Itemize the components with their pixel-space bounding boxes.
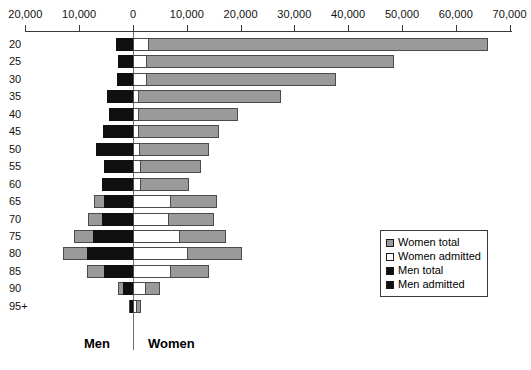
x-axis-tick <box>294 25 295 31</box>
age-group-label: 55 <box>9 161 21 172</box>
bar-men-admitted <box>118 55 133 68</box>
x-axis-tick <box>456 25 457 31</box>
bar-men-admitted <box>109 108 133 121</box>
x-axis-tick-label: 60,000 <box>439 9 473 20</box>
bar-women-admitted <box>133 73 147 86</box>
bar-women-total <box>133 73 336 86</box>
age-group-label: 60 <box>9 179 21 190</box>
legend-item: Women total <box>386 236 481 249</box>
bar-row: 65 <box>0 195 531 208</box>
bar-men-admitted <box>102 213 133 226</box>
x-axis-tick-label: 10,000 <box>62 9 96 20</box>
bar-men-admitted <box>116 38 133 51</box>
age-group-label: 25 <box>9 56 21 67</box>
x-axis-tick <box>187 25 188 31</box>
bar-row: 50 <box>0 143 531 156</box>
x-axis-tick <box>79 25 80 31</box>
x-axis-tick-label: 40,000 <box>331 9 365 20</box>
bar-women-admitted <box>133 108 139 121</box>
age-group-label: 95+ <box>9 301 28 312</box>
age-group-label: 65 <box>9 196 21 207</box>
x-axis-tick <box>348 25 349 31</box>
bar-women-admitted <box>133 178 141 191</box>
x-axis-tick <box>402 25 403 31</box>
bar-row: 20 <box>0 38 531 51</box>
bar-women-admitted <box>133 160 141 173</box>
bar-men-admitted <box>107 90 133 103</box>
bar-row: 55 <box>0 160 531 173</box>
x-axis-tick-label: 50,000 <box>385 9 419 20</box>
x-axis-tick-label: 0 <box>130 9 136 20</box>
age-group-label: 90 <box>9 283 21 294</box>
x-axis: 20,00010,000010,00020,00030,00040,00050,… <box>0 0 531 34</box>
legend-item: Men total <box>386 264 481 277</box>
age-group-label: 80 <box>9 248 21 259</box>
legend-swatch-women-admitted-icon <box>386 253 394 261</box>
bar-men-admitted <box>117 73 133 86</box>
legend-item: Men admitted <box>386 278 481 291</box>
age-group-label: 35 <box>9 91 21 102</box>
legend-swatch-men-total-icon <box>386 267 394 275</box>
age-group-label: 45 <box>9 126 21 137</box>
age-group-label: 85 <box>9 266 21 277</box>
bar-women-admitted <box>133 300 137 313</box>
legend-item: Women admitted <box>386 250 481 263</box>
bar-men-admitted <box>123 282 133 295</box>
x-axis-tick-label: 30,000 <box>277 9 311 20</box>
legend-swatch-men-admitted-icon <box>386 281 394 289</box>
legend-label: Women admitted <box>398 251 481 262</box>
bar-men-admitted <box>103 125 133 138</box>
bar-women-admitted <box>133 282 146 295</box>
bar-women-admitted <box>133 38 149 51</box>
bar-women-admitted <box>133 125 139 138</box>
bar-men-admitted <box>104 160 133 173</box>
bar-row: 45 <box>0 125 531 138</box>
bar-women-total <box>133 90 281 103</box>
age-group-label: 20 <box>9 39 21 50</box>
x-axis-tick <box>241 25 242 31</box>
x-axis-tick-label: 10,000 <box>170 9 204 20</box>
bar-men-admitted <box>93 230 133 243</box>
bar-row: 35 <box>0 90 531 103</box>
zero-axis-line-footer <box>133 318 134 350</box>
bar-row: 40 <box>0 108 531 121</box>
x-axis-tick <box>25 25 26 31</box>
bar-men-admitted <box>104 265 133 278</box>
population-pyramid-chart: 20,00010,000010,00020,00030,00040,00050,… <box>0 0 531 370</box>
bar-women-total <box>133 160 201 173</box>
bar-men-admitted <box>104 195 133 208</box>
bar-women-total <box>133 178 189 191</box>
bar-row: 95+ <box>0 300 531 313</box>
bar-men-admitted <box>87 247 133 260</box>
bar-women-admitted <box>133 230 180 243</box>
bar-women-admitted <box>133 55 147 68</box>
bar-women-admitted <box>133 265 171 278</box>
bar-women-admitted <box>133 213 169 226</box>
bar-women-admitted <box>133 195 171 208</box>
bar-men-admitted <box>102 178 133 191</box>
legend-label: Men total <box>398 265 443 276</box>
bar-row: 70 <box>0 213 531 226</box>
age-group-label: 50 <box>9 144 21 155</box>
age-group-label: 70 <box>9 214 21 225</box>
bar-women-total <box>133 125 219 138</box>
bar-women-admitted <box>133 90 139 103</box>
bar-women-admitted <box>133 247 188 260</box>
bar-women-total <box>133 108 238 121</box>
women-side-label: Women <box>148 337 195 350</box>
age-group-label: 40 <box>9 109 21 120</box>
bar-men-admitted <box>96 143 133 156</box>
legend-swatch-women-total-icon <box>386 239 394 247</box>
bar-row: 30 <box>0 73 531 86</box>
men-side-label: Men <box>84 337 110 350</box>
x-axis-tick-label: 70,000 <box>492 9 526 20</box>
bar-women-total <box>133 143 209 156</box>
bar-women-total <box>133 55 394 68</box>
bar-row: 25 <box>0 55 531 68</box>
age-group-label: 30 <box>9 74 21 85</box>
x-axis-tick-label: 20,000 <box>8 9 42 20</box>
bar-women-total <box>133 38 488 51</box>
chart-legend: Women totalWomen admittedMen totalMen ad… <box>380 230 488 297</box>
bar-men-admitted <box>130 300 133 313</box>
legend-label: Women total <box>398 237 460 248</box>
